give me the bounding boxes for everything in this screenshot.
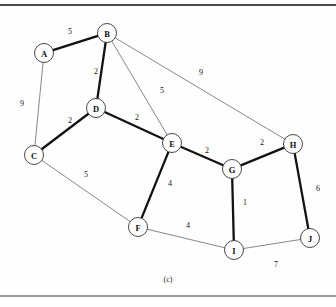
edge-d-e <box>105 112 164 139</box>
edge-a-b <box>53 36 98 50</box>
edge-i-j <box>243 239 300 248</box>
graph-node-g: G <box>223 160 242 179</box>
figure-caption: (c) <box>148 275 188 284</box>
edge-b-e <box>112 41 167 135</box>
figure-panel: 592592524242167 ABCDEFGHIJ (c) <box>0 0 336 307</box>
edge-weight-c-f: 5 <box>84 170 88 179</box>
edge-weight-e-g: 2 <box>205 146 209 155</box>
node-label-g: G <box>229 165 236 175</box>
node-label-b: B <box>104 29 110 39</box>
weighted-graph-diagram: 592592524242167 ABCDEFGHIJ <box>0 0 336 307</box>
node-label-e: E <box>169 139 175 149</box>
edge-weight-c-d: 2 <box>68 116 72 125</box>
edge-e-g <box>181 147 224 165</box>
edge-g-i <box>232 179 234 241</box>
graph-node-f: F <box>129 218 148 237</box>
graph-node-a: A <box>35 44 54 63</box>
edge-weight-f-i: 4 <box>186 221 190 230</box>
edge-weight-e-f: 4 <box>168 179 172 188</box>
edge-b-h <box>115 38 285 139</box>
edge-weight-b-e: 5 <box>160 86 164 95</box>
edge-c-d <box>42 114 89 150</box>
node-layer: ABCDEFGHIJ <box>25 24 320 260</box>
edge-weight-g-i: 1 <box>243 198 247 207</box>
graph-node-j: J <box>301 229 320 248</box>
edge-weight-b-d: 2 <box>94 67 98 76</box>
node-label-c: C <box>31 151 37 161</box>
edge-weight-i-j: 7 <box>274 260 278 269</box>
graph-node-d: D <box>87 99 106 118</box>
graph-node-h: H <box>284 135 303 154</box>
edge-f-i <box>147 229 225 248</box>
edge-weight-a-b: 5 <box>68 27 72 36</box>
graph-node-b: B <box>98 24 117 43</box>
graph-node-i: I <box>225 241 244 260</box>
edge-a-c <box>35 62 43 145</box>
edge-b-d <box>97 42 105 98</box>
edge-e-f <box>142 152 169 218</box>
graph-node-c: C <box>25 146 44 165</box>
edge-weight-a-c: 9 <box>20 99 24 108</box>
node-label-h: H <box>290 140 297 150</box>
edge-weight-b-h: 9 <box>199 68 203 77</box>
edge-weight-d-e: 2 <box>135 113 139 122</box>
edge-g-h <box>241 148 284 166</box>
node-label-d: D <box>93 104 99 114</box>
edge-h-j <box>295 153 309 228</box>
edge-weight-g-h: 2 <box>260 138 264 147</box>
graph-node-e: E <box>163 134 182 153</box>
edge-weight-h-j: 6 <box>316 184 320 193</box>
node-label-f: F <box>135 223 140 233</box>
node-label-a: A <box>41 49 48 59</box>
